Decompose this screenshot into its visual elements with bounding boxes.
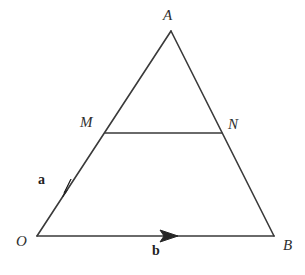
vertex-label-M: M — [80, 115, 93, 130]
vertex-label-O: O — [16, 234, 27, 249]
triangle-diagram-svg — [0, 0, 305, 275]
geometry-figure: A O B M N a b — [0, 0, 305, 275]
vector-label-b: b — [152, 244, 160, 258]
vertex-label-N: N — [228, 117, 238, 132]
vector-label-a: a — [38, 173, 45, 187]
vertex-label-B: B — [283, 238, 292, 253]
vector-a-arrowhead-icon — [63, 179, 72, 197]
vertex-label-A: A — [163, 8, 172, 23]
